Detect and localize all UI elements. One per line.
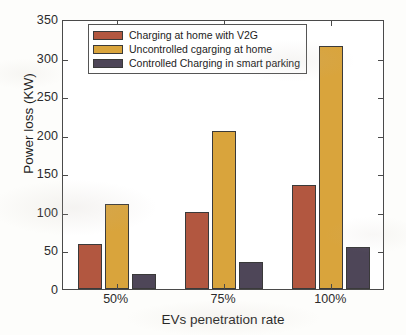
legend-item: Charging at home with V2G	[93, 28, 300, 42]
legend-color-swatch	[93, 31, 123, 40]
bar	[346, 247, 370, 289]
legend-item: Controlled Charging in smart parking	[93, 56, 300, 70]
y-axis-tick-mark	[63, 60, 68, 61]
y-axis-tick-mark	[378, 98, 383, 99]
y-axis-tick-label: 0	[51, 283, 58, 297]
legend-color-swatch	[93, 59, 123, 68]
bar	[105, 204, 129, 289]
legend-item-label: Controlled Charging in smart parking	[129, 57, 300, 69]
y-axis-tick-label: 50	[44, 244, 58, 258]
y-axis-tick-label: 150	[37, 167, 58, 181]
bar	[185, 212, 209, 289]
bar	[78, 244, 102, 289]
chart-legend: Charging at home with V2GUncontrolled cg…	[88, 24, 307, 74]
x-axis-tick-label: 50%	[103, 292, 128, 306]
y-axis-tick-label: 300	[37, 52, 58, 66]
y-axis-tick-mark	[378, 252, 383, 253]
x-axis-tick-label: 100%	[314, 292, 346, 306]
x-axis-tick-label: 75%	[210, 292, 235, 306]
y-axis-tick-mark	[378, 60, 383, 61]
x-axis-label: EVs penetration rate	[62, 312, 384, 327]
y-axis-tick-mark	[63, 252, 68, 253]
x-axis-tick-mark	[224, 284, 225, 289]
x-axis-tick-mark	[331, 21, 332, 26]
bar	[319, 46, 343, 289]
legend-item: Uncontrolled cgarging at home	[93, 42, 300, 56]
y-axis-tick-label: 200	[37, 129, 58, 143]
legend-item-label: Uncontrolled cgarging at home	[129, 43, 272, 55]
bar	[132, 274, 156, 289]
bar-chart-figure: Power loss (KW) 050100150200250300350 50…	[0, 0, 406, 335]
y-axis-tick-labels: 050100150200250300350	[16, 20, 58, 290]
x-axis-tick-mark	[117, 284, 118, 289]
legend-color-swatch	[93, 45, 123, 54]
x-axis-tick-labels: 50%75%100%	[62, 292, 384, 310]
y-axis-tick-mark	[378, 137, 383, 138]
bar	[292, 185, 316, 289]
bar	[212, 131, 236, 289]
y-axis-tick-label: 100	[37, 206, 58, 220]
legend-item-label: Charging at home with V2G	[129, 29, 258, 41]
y-axis-tick-mark	[378, 214, 383, 215]
y-axis-tick-mark	[63, 137, 68, 138]
y-axis-tick-mark	[63, 98, 68, 99]
y-axis-tick-mark	[63, 175, 68, 176]
y-axis-tick-mark	[378, 175, 383, 176]
x-axis-tick-mark	[331, 284, 332, 289]
y-axis-tick-label: 350	[37, 13, 58, 27]
bar	[239, 262, 263, 289]
y-axis-tick-mark	[63, 214, 68, 215]
y-axis-tick-label: 250	[37, 90, 58, 104]
